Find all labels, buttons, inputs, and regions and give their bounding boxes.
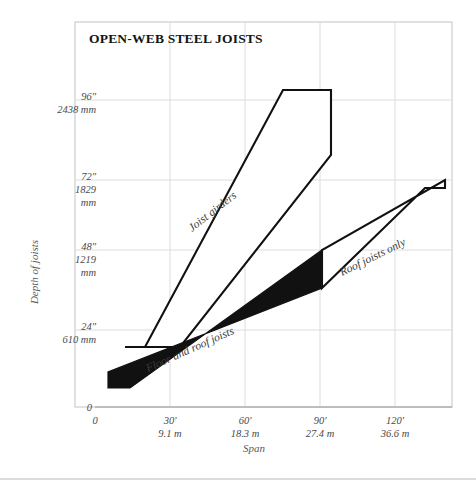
x-axis-title: Span (243, 442, 266, 454)
x-tick-30-secondary: 9.1 m (158, 428, 182, 439)
y-tick-48-primary: 48″ (81, 241, 97, 252)
y-tick-72-primary: 72″ (81, 171, 97, 182)
page-title: OPEN-WEB STEEL JOISTS (89, 31, 263, 46)
y-tick-48-secondary-unit: mm (81, 267, 97, 278)
x-tick-30-primary: 30' (163, 415, 178, 426)
y-axis-title: Depth of joists (28, 240, 40, 305)
y-tick-96-secondary: 2438 mm (57, 104, 96, 115)
x-tick-60-secondary: 18.3 m (231, 428, 260, 439)
chart-figure: OPEN-WEB STEEL JOISTS Joist girders Floo… (0, 0, 476, 480)
x-tick-0-primary: 0 (92, 415, 98, 426)
x-tick-90-primary: 90' (314, 415, 328, 426)
x-tick-120-primary: 120' (386, 415, 405, 426)
y-tick-72-secondary-value: 1829 (75, 184, 97, 195)
x-tick-120-secondary: 36.6 m (380, 428, 410, 439)
y-tick-72-secondary-unit: mm (81, 197, 97, 208)
y-tick-24-primary: 24″ (81, 321, 97, 332)
y-tick-24-secondary: 610 mm (62, 334, 96, 345)
x-tick-90-secondary: 27.4 m (306, 428, 335, 439)
region-joist-girders (125, 90, 331, 347)
open-web-steel-joists-chart: OPEN-WEB STEEL JOISTS Joist girders Floo… (0, 0, 476, 480)
x-tick-60-primary: 60' (239, 415, 253, 426)
y-tick-48-secondary-value: 1219 (75, 254, 97, 265)
y-tick-96-primary: 96″ (81, 91, 97, 102)
y-tick-0-primary: 0 (87, 402, 93, 413)
